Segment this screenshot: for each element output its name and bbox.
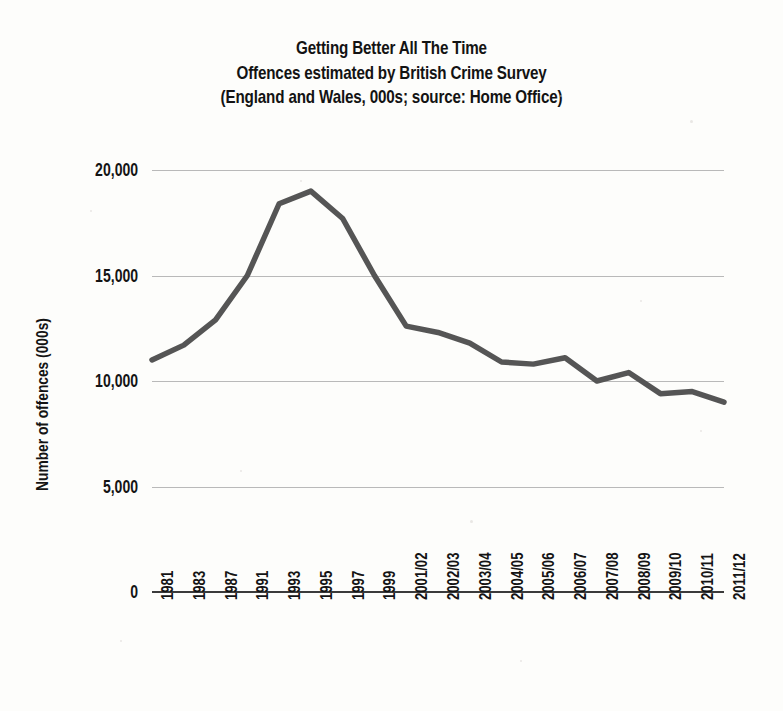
x-axis-tick-label: 2010/11 xyxy=(699,553,717,600)
paper-speck xyxy=(690,120,693,123)
data-line xyxy=(152,191,724,402)
x-axis-tick-label: 2003/04 xyxy=(477,553,495,600)
x-axis-tick-label: 2007/08 xyxy=(604,553,622,600)
chart-figure: Getting Better All The Time Offences est… xyxy=(0,0,783,711)
x-axis-tick-label: 1999 xyxy=(381,571,399,600)
paper-speck xyxy=(90,210,92,212)
paper-speck xyxy=(700,430,702,432)
y-axis-tick-label: 20,000 xyxy=(95,160,138,181)
x-axis-tick-label: 1983 xyxy=(191,571,209,600)
paper-speck xyxy=(240,470,242,472)
x-axis-tick-label: 1993 xyxy=(286,571,304,600)
plot-area: 05,00010,00015,00020,000 xyxy=(152,170,724,592)
offences-line-series xyxy=(152,170,724,592)
x-axis-tick-label: 2008/09 xyxy=(636,553,654,600)
paper-speck xyxy=(120,640,122,642)
x-axis-tick-label: 1997 xyxy=(350,571,368,600)
y-axis-title: Number of offences (000s) xyxy=(34,318,52,491)
y-axis-tick-label: 10,000 xyxy=(95,371,138,392)
x-axis-tick-label: 2001/02 xyxy=(413,553,431,600)
y-axis-tick-label: 0 xyxy=(130,582,138,603)
x-axis-tick-label: 2011/12 xyxy=(731,553,749,600)
chart-source-line: (England and Wales, 000s; source: Home O… xyxy=(78,85,704,110)
x-axis-tick-label: 1995 xyxy=(318,571,336,600)
paper-speck xyxy=(640,300,642,302)
x-axis-tick-label: 2006/07 xyxy=(572,553,590,600)
paper-speck xyxy=(470,520,473,523)
y-axis-tick-label: 15,000 xyxy=(95,266,138,287)
x-axis-tick-label: 1987 xyxy=(223,571,241,600)
chart-title: Getting Better All The Time xyxy=(78,36,704,61)
x-axis-tick-label: 1981 xyxy=(159,571,177,600)
y-axis-tick-label: 5,000 xyxy=(103,477,138,498)
x-axis-tick-label: 2004/05 xyxy=(509,553,527,600)
x-axis-labels: 198119831987199119931995199719992001/022… xyxy=(152,600,724,710)
paper-speck xyxy=(560,95,562,97)
x-axis-tick-label: 2002/03 xyxy=(445,553,463,600)
x-axis-tick-label: 2009/10 xyxy=(667,553,685,600)
chart-subtitle: Offences estimated by British Crime Surv… xyxy=(78,61,704,86)
x-axis-tick-label: 2005/06 xyxy=(540,553,558,600)
paper-speck xyxy=(520,660,522,662)
chart-title-block: Getting Better All The Time Offences est… xyxy=(0,36,783,110)
x-axis-tick-label: 1991 xyxy=(254,571,272,600)
paper-speck xyxy=(300,180,302,182)
